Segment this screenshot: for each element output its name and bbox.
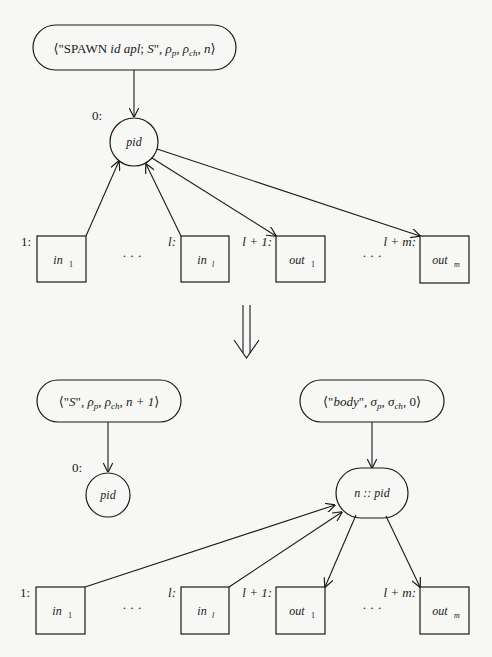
before-graph: ⟨"SPAWN id apl; S", ρp, ρch, n⟩ pid 0: i… <box>21 25 469 283</box>
output-box-m: out m l + m: <box>383 234 469 283</box>
output-box-m-index: l + m: <box>383 234 416 249</box>
svg-text:in: in <box>197 604 206 618</box>
svg-text:pid: pid <box>99 488 116 502</box>
diagram-canvas: ⟨"SPAWN id apl; S", ρp, ρch, n⟩ pid 0: i… <box>0 0 492 657</box>
svg-text:out: out <box>289 604 305 618</box>
output-box-1-index: l + 1: <box>242 234 272 249</box>
edge-pid-to-outm <box>157 149 420 236</box>
svg-text:out: out <box>289 253 305 267</box>
body-pill: ⟨"body", σp, σch, 0⟩ <box>300 380 444 422</box>
input-ellipsis: · · · <box>122 248 142 263</box>
svg-text:out: out <box>432 253 448 267</box>
svg-text:⟨"SPAWN id apl; S", ρp, ρch, n: ⟨"SPAWN id apl; S", ρp, ρch, n⟩ <box>53 41 215 58</box>
svg-text:1: 1 <box>311 611 315 620</box>
edge-in1-to-pid <box>86 161 119 236</box>
edge-child-to-outm <box>386 516 420 587</box>
svg-text:1: 1 <box>68 611 72 620</box>
svg-text:⟨"body", σp, σch, 0⟩: ⟨"body", σp, σch, 0⟩ <box>323 394 421 411</box>
child-pid-node: n :: pid <box>336 468 408 518</box>
svg-text:out: out <box>432 604 448 618</box>
after-input-ellipsis: · · · <box>122 600 142 615</box>
svg-text:m: m <box>454 611 460 620</box>
svg-text:in: in <box>53 253 62 267</box>
output-ellipsis: · · · <box>362 248 382 263</box>
input-box-l: in l l: <box>168 234 229 282</box>
input-box-l-index: l: <box>168 234 176 249</box>
edge-child-to-out1 <box>325 515 356 587</box>
after-input-box-l-index: l: <box>168 585 176 600</box>
rewrite-arrow-icon <box>234 305 259 358</box>
continuation-pill: ⟨"S", ρp, ρch, n + 1⟩ <box>37 380 181 422</box>
after-output-box-m-index: l + m: <box>383 585 416 600</box>
pid-index-label: 0: <box>92 108 102 123</box>
svg-text:in: in <box>197 253 206 267</box>
svg-text:l: l <box>212 611 215 620</box>
after-input-box-1: in 1 1: <box>20 585 85 634</box>
svg-text:1: 1 <box>311 260 315 269</box>
spawn-command-pill: ⟨"SPAWN id apl; S", ρp, ρch, n⟩ <box>33 25 236 70</box>
after-output-box-1: out 1 l + 1: <box>242 585 325 634</box>
after-output-box-1-index: l + 1: <box>242 585 272 600</box>
edge-pid-to-out1 <box>152 158 276 236</box>
parent-pid-node: pid 0: <box>72 460 130 517</box>
after-input-box-1-index: 1: <box>20 585 30 600</box>
svg-text:l: l <box>212 260 215 269</box>
after-output-box-m: out m l + m: <box>383 585 469 634</box>
input-box-1: in 1 1: <box>21 234 86 282</box>
after-graph: ⟨"S", ρp, ρch, n + 1⟩ pid 0: ⟨"body", σp… <box>20 380 469 634</box>
after-input-box-l: in l l: <box>168 585 229 634</box>
svg-text:⟨"S", ρp, ρch, n + 1⟩: ⟨"S", ρp, ρch, n + 1⟩ <box>59 394 160 411</box>
svg-text:n :: pid: n :: pid <box>354 486 390 500</box>
after-output-ellipsis: · · · <box>362 600 382 615</box>
edge-inl-to-pid <box>146 164 181 236</box>
edge-in1-to-child <box>85 505 335 587</box>
pid-node: pid 0: <box>92 108 158 166</box>
edge-inl-to-child <box>229 512 342 587</box>
svg-text:1: 1 <box>69 260 73 269</box>
output-box-1: out 1 l + 1: <box>242 234 325 282</box>
svg-text:in: in <box>52 604 61 618</box>
svg-text:pid: pid <box>125 135 142 149</box>
svg-text:m: m <box>454 260 460 269</box>
parent-pid-index-label: 0: <box>72 460 82 475</box>
input-box-1-index: 1: <box>21 234 31 249</box>
